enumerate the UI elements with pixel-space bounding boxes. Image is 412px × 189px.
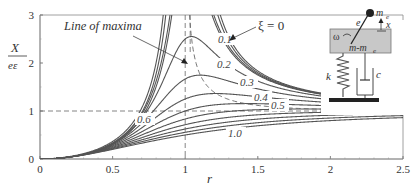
ground-base: [329, 98, 379, 102]
arrowhead-icon: [181, 58, 188, 64]
response-curve: [40, 118, 403, 159]
response-curve: [40, 111, 403, 159]
x-tick-label: 2.5: [396, 163, 410, 175]
y-tick-label: 0: [29, 153, 35, 165]
eccentric-mass-icon: [366, 9, 374, 17]
x-tick-label: 1: [182, 163, 188, 175]
curve-label-xi: 0.3: [240, 76, 254, 88]
curve-label-xi: 0.5: [271, 99, 285, 111]
response-curve: [40, 109, 403, 159]
y-axis-label-numerator: X: [10, 40, 20, 55]
xi-zero-arrow: [233, 27, 256, 38]
x-axis-label: r: [207, 171, 213, 186]
damper-label: c: [376, 68, 381, 80]
y-tick-label: 1: [29, 105, 35, 117]
curve-label-xi: 0.2: [217, 58, 231, 70]
line-of-maxima-label: Line of maxima: [63, 19, 142, 33]
curve-label-xi: 0.4: [254, 91, 268, 103]
curve-label-xi: 0.1: [218, 33, 232, 45]
y-tick-label: 3: [29, 9, 35, 21]
eccentricity-label: e: [356, 17, 361, 28]
x-tick-label: 0.5: [106, 163, 120, 175]
y-tick-label: 2: [29, 57, 35, 69]
curve-label-xi: 1.0: [228, 127, 242, 139]
x-tick-label: 2: [328, 163, 334, 175]
response-curve: [40, 116, 403, 159]
frequency-response-chart: 00.511.522.50123 0.10.20.30.40.50.61.0 L…: [0, 0, 412, 189]
x-tick-label: 1.5: [251, 163, 265, 175]
xi-zero-label: ξ = 0: [258, 18, 284, 33]
y-axis-label-denominator: eε: [8, 59, 18, 71]
curve-label-xi: 0.6: [137, 113, 151, 125]
body-mass-sub: e: [373, 47, 376, 55]
omega-label: ω: [333, 31, 340, 42]
response-curve: [40, 114, 403, 159]
inset-schematic: m e e ω m-m e x k c: [321, 7, 406, 115]
eccentric-mass-label: m: [376, 7, 383, 18]
x-tick-label: 0: [37, 163, 43, 175]
displacement-label: x: [385, 19, 391, 30]
body-mass-label: m-m: [349, 42, 367, 53]
